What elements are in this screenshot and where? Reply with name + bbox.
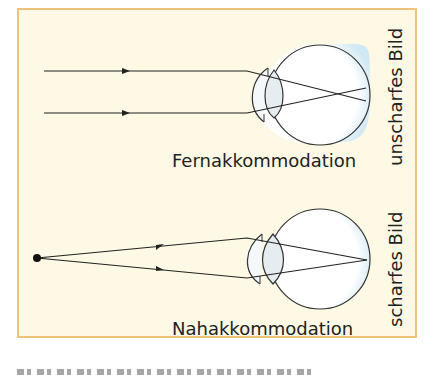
blurry-image-label: unscharfes Bild bbox=[385, 28, 406, 166]
near-accommodation-label: Nahakkommodation bbox=[172, 318, 353, 339]
far-accommodation-eye bbox=[252, 44, 370, 145]
near-accommodation-eye bbox=[247, 209, 370, 309]
object-point bbox=[33, 254, 41, 262]
figure-caption-cropped bbox=[17, 366, 317, 375]
far-accommodation-label: Fernakkommodation bbox=[172, 150, 356, 171]
sharp-image-label: scharfes Bild bbox=[385, 212, 406, 327]
